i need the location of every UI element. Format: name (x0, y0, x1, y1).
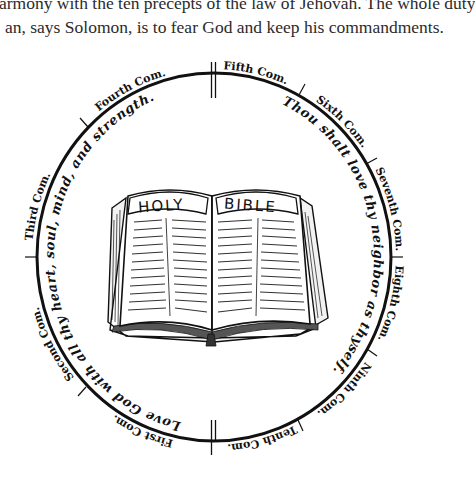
top-double-tick (212, 62, 216, 98)
bottom-double-tick (212, 420, 216, 455)
bible-title-bible: BIBLE (223, 195, 277, 217)
bible-title-holy: HOLY (137, 195, 185, 216)
